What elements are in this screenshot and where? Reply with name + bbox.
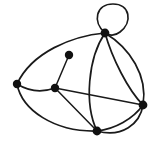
edge-left-center — [17, 84, 55, 91]
edge-bottom-right — [97, 105, 143, 131]
vertex-bottom — [93, 127, 102, 136]
edge-top-right-outer — [105, 33, 144, 105]
vertex-pendant — [65, 51, 73, 59]
edge-top-bottom — [89, 33, 105, 131]
vertex-left — [13, 80, 21, 88]
graph-figure — [0, 0, 155, 145]
edge-layer — [17, 4, 144, 133]
vertex-center — [51, 84, 59, 92]
edge-top-left — [17, 33, 105, 84]
edge-center-pendant — [55, 55, 69, 88]
graph-canvas — [0, 0, 155, 145]
vertex-top — [101, 29, 110, 38]
vertex-right — [139, 101, 148, 110]
edge-right-bottom-outer — [97, 105, 143, 133]
